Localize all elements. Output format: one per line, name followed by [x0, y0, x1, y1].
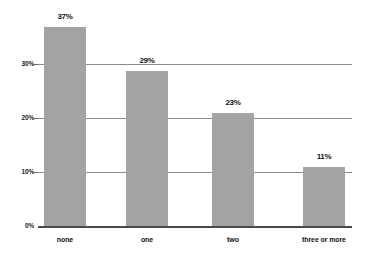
ytick-label-10: 10%: [8, 169, 34, 176]
bar-chart: 30% 20% 10% 0% 37% 29% 23% 11% none one …: [0, 0, 368, 261]
x-axis-line: [38, 226, 352, 228]
bar-value-none: 37%: [44, 13, 86, 21]
bar-two[interactable]: [212, 113, 254, 226]
ytick-mark-30: [32, 64, 38, 65]
bar-three-or-more[interactable]: [303, 167, 345, 226]
ytick-label-20: 20%: [8, 115, 34, 122]
category-label-one: one: [122, 236, 172, 243]
ytick-label-30: 30%: [8, 61, 34, 68]
bar-one[interactable]: [126, 71, 168, 226]
bar-value-one: 29%: [126, 57, 168, 65]
ytick-label-0: 0%: [8, 223, 34, 230]
ytick-mark-10: [32, 172, 38, 173]
category-label-three-or-more: three or more: [293, 236, 355, 243]
bar-value-two: 23%: [212, 99, 254, 107]
category-label-two: two: [208, 236, 258, 243]
category-label-none: none: [40, 236, 90, 243]
bar-value-three-or-more: 11%: [303, 153, 345, 161]
bar-none[interactable]: [44, 27, 86, 226]
ytick-mark-20: [32, 118, 38, 119]
plot-area: 30% 20% 10% 0% 37% 29% 23% 11% none one …: [0, 0, 368, 261]
